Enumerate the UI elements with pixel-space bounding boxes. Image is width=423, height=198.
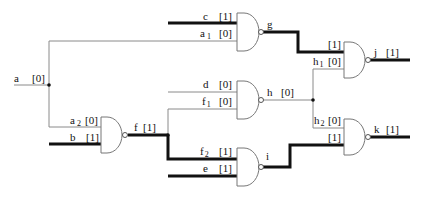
nand-gate-g [237, 13, 264, 51]
label-f1: f1 [202, 95, 211, 109]
label-b: b [70, 131, 76, 143]
label-a1: a1 [200, 27, 211, 41]
label-h2: h2 [314, 114, 325, 128]
wire-h1 [313, 69, 344, 100]
label-g: g [267, 18, 273, 30]
label-a: a [14, 72, 19, 84]
value-h: [0] [281, 86, 294, 98]
value-k: [1] [386, 123, 399, 135]
label-k: k [374, 123, 380, 135]
wire-f1 [168, 109, 237, 135]
nand-gate-h [237, 81, 264, 119]
label-c: c [203, 10, 208, 22]
nand-gate-j [344, 42, 371, 78]
value-g-in: [1] [328, 38, 341, 50]
nand-gate-i [237, 148, 264, 186]
junction-h [311, 98, 315, 102]
value-f2: [1] [219, 145, 232, 157]
label-f: f [134, 121, 138, 133]
value-f1: [0] [219, 95, 232, 107]
label-d: d [203, 78, 209, 90]
value-j: [1] [386, 46, 399, 58]
wire-i [263, 145, 344, 167]
label-f2: f2 [200, 145, 209, 159]
value-a1: [0] [219, 27, 232, 39]
value-h1: [0] [328, 55, 341, 67]
nand-gate-k [344, 119, 371, 155]
wire-a1 [49, 41, 237, 85]
logic-circuit: a [0] c [1] a1 [0] g d [0] f1 [0] h [0] … [0, 0, 423, 198]
label-j: j [373, 46, 377, 58]
value-e: [1] [219, 162, 232, 174]
label-e: e [203, 162, 208, 174]
junction-a [47, 83, 51, 87]
value-b: [1] [86, 131, 99, 143]
junction-f [166, 133, 170, 137]
label-i: i [266, 150, 269, 162]
label-a2: a2 [70, 114, 81, 128]
value-d: [0] [219, 78, 232, 90]
value-a: [0] [32, 72, 45, 84]
value-h2: [0] [328, 114, 341, 126]
value-c: [1] [219, 10, 232, 22]
value-a2: [0] [85, 114, 98, 126]
label-h: h [267, 86, 273, 98]
value-i-in: [1] [328, 131, 341, 143]
value-f: [1] [143, 121, 156, 133]
nand-gate-f [101, 117, 128, 153]
label-h1: h1 [313, 55, 324, 69]
